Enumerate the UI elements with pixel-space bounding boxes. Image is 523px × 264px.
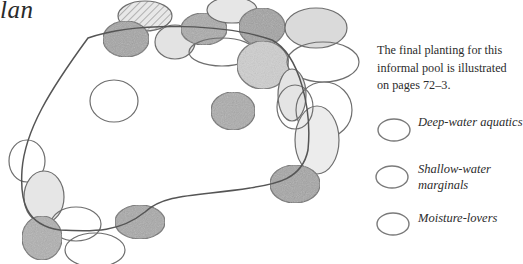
plant-group-outline (65, 233, 125, 264)
plant-group-dark (211, 92, 255, 130)
plant-group-dark (115, 205, 165, 239)
plant-group-dark (270, 165, 320, 203)
plant-group-outline (90, 80, 138, 122)
legend-symbol-moisture-lovers (377, 213, 409, 235)
plant-group-dark (22, 216, 62, 260)
legend-symbol-deep-water (378, 119, 410, 141)
legend-label-moisture-lovers: Moisture-lovers (418, 211, 523, 227)
legend-symbol-shallow-water (376, 166, 408, 188)
legend-label-shallow-water: Shallow-water marginals (418, 162, 523, 193)
plant-group-light (295, 106, 339, 174)
plant-group-light (278, 69, 306, 121)
plant-group-dark (239, 8, 285, 46)
plant-group-dark (103, 21, 149, 57)
caption-text: The final planting for this informal poo… (377, 42, 521, 95)
legend-label-deep-water: Deep-water aquatics (418, 115, 523, 131)
plant-groups (9, 0, 359, 264)
